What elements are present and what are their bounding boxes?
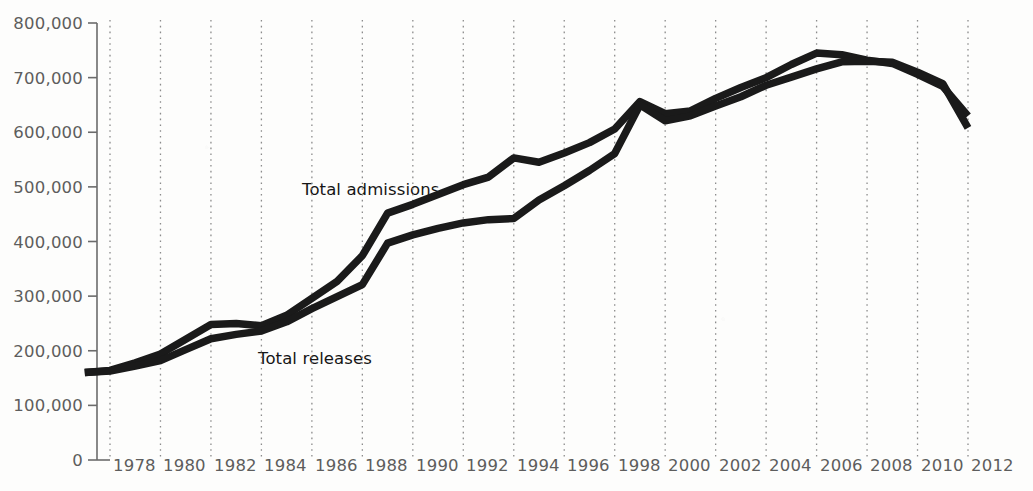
gridlines (110, 20, 968, 458)
axis-lines (88, 23, 110, 460)
plot-area (0, 0, 1033, 491)
data-series-lines (85, 53, 968, 373)
y-axis-ticks (88, 23, 97, 460)
chart-container: 0 100,000 200,000 300,000 400,000 500,00… (0, 0, 1033, 491)
